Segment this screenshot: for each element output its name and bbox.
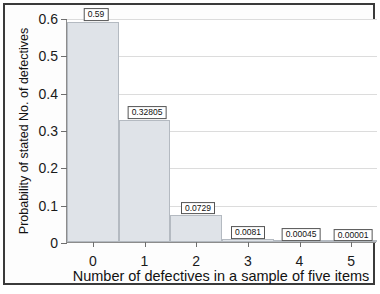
data-label-5: 0.00001 [334,229,373,242]
y-tick-label: 0.6 [0,12,58,26]
x-tick-mark [300,242,301,247]
x-tick-mark [93,242,94,247]
x-tick-label: 0 [73,254,113,268]
figure-frame: Probability of stated No. of defectives … [3,3,375,285]
x-tick-label: 1 [125,254,165,268]
x-axis-title: Number of defectives in a sample of five… [66,269,376,284]
y-tick-label: 0.4 [0,87,58,101]
data-label-2: 0.0729 [181,202,215,215]
bar-2 [170,215,222,242]
y-tick-label: 0.3 [0,124,58,138]
bar-0 [67,22,119,242]
x-tick-mark [351,242,352,247]
x-tick-mark [248,242,249,247]
y-tick-mark [61,19,67,20]
x-tick-label: 5 [331,254,371,268]
x-tick-label: 2 [176,254,216,268]
gridline-0.6 [67,19,377,20]
bar-1 [119,120,171,243]
y-tick-label: 0 [0,236,58,250]
y-tick-label: 0.2 [0,161,58,175]
chart-figure: Probability of stated No. of defectives … [0,0,380,294]
x-tick-label: 3 [228,254,268,268]
data-label-4: 0.00045 [282,228,321,241]
data-label-0: 0.59 [84,8,109,21]
y-tick-label: 0.5 [0,49,58,63]
x-tick-mark [145,242,146,247]
x-tick-label: 4 [280,254,320,268]
y-tick-label: 0.1 [0,199,58,213]
plot-area: 0.6 0.5 0.4 0.3 0.2 0.1 0 0.59 0.32805 0… [66,19,376,243]
x-tick-mark [196,242,197,247]
y-tick-mark [61,243,67,244]
data-label-3: 0.0081 [231,226,265,239]
data-label-1: 0.32805 [128,106,167,119]
